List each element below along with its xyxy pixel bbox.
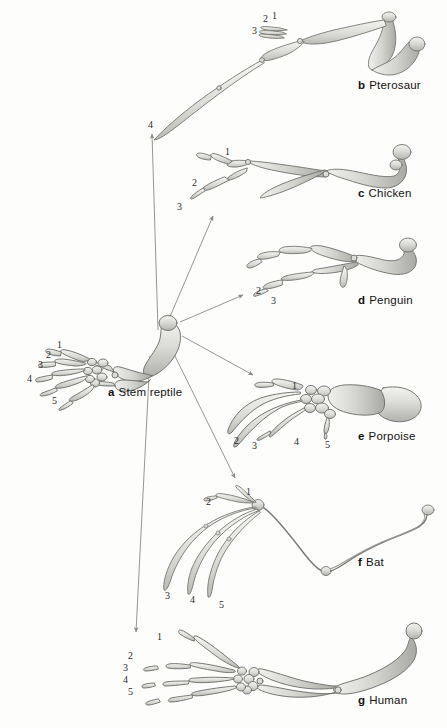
arrow-to-bat [172, 350, 235, 478]
taxon-label-a: aStem reptile [108, 386, 182, 398]
digit-label-f-5: 5 [219, 600, 224, 610]
digit-label-a-4: 4 [27, 374, 32, 384]
digit-label-a-2: 2 [46, 350, 51, 360]
digit-label-e-1: 1 [292, 381, 297, 391]
limb-bat [164, 486, 434, 598]
digit-label-c-3: 3 [177, 202, 182, 212]
divergence-arrows [136, 134, 253, 632]
taxon-name-c: Chicken [369, 187, 412, 199]
digit-label-e-3: 3 [252, 441, 257, 451]
digit-label-b-1: 1 [272, 11, 277, 21]
digit-label-g-3: 3 [123, 663, 128, 673]
taxon-name-g: Human [369, 694, 407, 706]
taxon-name-d: Penguin [369, 294, 413, 306]
taxon-tag-g: g [358, 694, 365, 706]
taxon-tag-a: a [108, 386, 115, 398]
arrow-to-pterosaur [152, 134, 158, 330]
taxon-name-b: Pterosaur [369, 79, 421, 91]
digit-label-b-4: 4 [148, 120, 153, 130]
taxon-name-f: Bat [366, 556, 384, 568]
digit-label-c-1: 1 [225, 147, 230, 157]
taxon-label-f: fBat [358, 556, 384, 568]
limb-pterosaur [154, 12, 425, 140]
taxon-label-b: bPterosaur [358, 79, 421, 91]
digit-label-b-3: 3 [252, 26, 257, 36]
digit-label-f-1: 1 [246, 487, 251, 497]
digit-label-g-2: 2 [128, 651, 133, 661]
homology-figure: aStem reptilebPterosaurcChickendPenguine… [0, 0, 447, 728]
taxon-tag-c: c [358, 187, 365, 199]
taxon-name-a: Stem reptile [119, 386, 183, 398]
digit-label-d-2: 2 [256, 286, 261, 296]
taxon-label-e: ePorpoise [358, 430, 416, 442]
digit-label-d-3: 3 [271, 296, 276, 306]
digit-label-e-2: 2 [234, 436, 239, 446]
digit-label-e-4: 4 [294, 437, 299, 447]
taxon-tag-d: d [358, 294, 365, 306]
digit-label-f-2: 2 [206, 497, 211, 507]
limb-human [142, 623, 422, 705]
taxon-name-e: Porpoise [369, 430, 416, 442]
taxon-label-d: dPenguin [358, 294, 413, 306]
digit-label-f-3: 3 [165, 591, 170, 601]
taxon-label-g: gHuman [358, 694, 407, 706]
limb-penguin [247, 238, 417, 296]
digit-label-f-4: 4 [190, 595, 195, 605]
arrow-to-chicken [166, 216, 213, 326]
arrow-to-porpoise [182, 336, 253, 375]
taxon-tag-f: f [358, 556, 362, 568]
digit-label-c-2: 2 [192, 178, 197, 188]
digit-label-g-4: 4 [123, 675, 128, 685]
digit-label-e-5: 5 [325, 440, 330, 450]
digit-label-a-3: 3 [38, 360, 43, 370]
taxon-label-c: cChicken [358, 187, 412, 199]
digit-label-a-5: 5 [52, 396, 57, 406]
digit-label-g-5: 5 [128, 687, 133, 697]
limb-illustration [0, 0, 447, 728]
taxon-tag-e: e [358, 430, 365, 442]
digit-label-a-1: 1 [57, 340, 62, 350]
arrow-to-penguin [180, 295, 243, 322]
digit-label-g-1: 1 [157, 632, 162, 642]
taxon-tag-b: b [358, 79, 365, 91]
digit-label-b-2: 2 [263, 14, 268, 24]
